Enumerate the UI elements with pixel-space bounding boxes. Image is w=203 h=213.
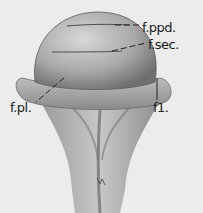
label-f-sec: f.sec. <box>148 38 179 51</box>
label-f-ppd: f.ppd. <box>142 21 176 34</box>
dome <box>34 12 156 90</box>
label-f-pl: f.pl. <box>10 101 31 114</box>
label-f1: f1. <box>153 101 168 114</box>
